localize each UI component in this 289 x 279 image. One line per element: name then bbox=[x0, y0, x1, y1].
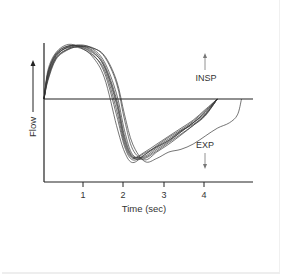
insp-label: INSP bbox=[195, 73, 216, 83]
breath-curve bbox=[44, 45, 217, 159]
x-tick-label-1: 1 bbox=[80, 190, 85, 200]
arrow-up-icon bbox=[31, 60, 36, 66]
breath-curve bbox=[44, 45, 217, 158]
breath-curve bbox=[44, 45, 217, 158]
arrow-up-icon bbox=[203, 53, 207, 58]
arrow-down-icon bbox=[203, 164, 207, 169]
exp-label: EXP bbox=[196, 140, 214, 150]
x-ticks bbox=[83, 182, 204, 187]
flow-time-chart: 1 2 3 4 Time (sec) Flow INSP EXP bbox=[0, 0, 289, 279]
x-axis-label: Time (sec) bbox=[122, 203, 167, 214]
breath-curve bbox=[44, 47, 217, 159]
y-axis-label: Flow bbox=[27, 117, 38, 137]
x-tick-label-2: 2 bbox=[120, 190, 125, 200]
breath-curve bbox=[44, 46, 217, 158]
breath-curve bbox=[44, 46, 217, 160]
x-tick-label-4: 4 bbox=[201, 190, 206, 200]
x-tick-label-3: 3 bbox=[161, 190, 166, 200]
